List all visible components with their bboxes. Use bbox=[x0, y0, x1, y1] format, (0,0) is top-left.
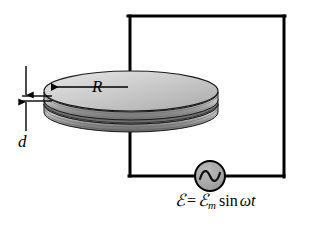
emf-amplitude-symbol: ℰ bbox=[198, 190, 208, 210]
upper-plate-top-face bbox=[44, 71, 218, 111]
emf-amplitude-subscript: m bbox=[208, 199, 216, 211]
sine-function: sin bbox=[216, 192, 238, 209]
emf-symbol: ℰ bbox=[175, 190, 185, 210]
ac-source[interactable] bbox=[195, 161, 225, 191]
time-variable: t bbox=[251, 192, 255, 209]
emf-equation: ℰ=ℰmsinωt bbox=[175, 192, 255, 211]
capacitor-circuit-figure: R d ℰ=ℰmsinωt bbox=[0, 0, 310, 227]
radius-label: R bbox=[92, 78, 102, 95]
separation-label: d bbox=[18, 133, 27, 150]
figure-canvas bbox=[0, 0, 310, 227]
omega-symbol: ω bbox=[238, 192, 251, 209]
parallel-plate-capacitor bbox=[44, 71, 218, 132]
equals-sign: = bbox=[185, 192, 198, 209]
